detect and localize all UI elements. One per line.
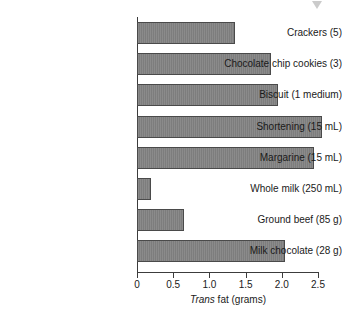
category-label: Whole milk (250 mL) [211,183,342,195]
x-tick-label: 0.5 [153,279,193,291]
category-label: Shortening (15 mL) [211,121,342,133]
x-tick [282,273,283,278]
category-label: Chocolate chip cookies (3) [211,58,342,70]
category-label: Margarine (15 mL) [211,152,342,164]
x-tick-label: 0 [117,279,157,291]
x-axis-title-roman: fat (grams) [215,294,266,305]
x-tick [137,273,138,278]
x-tick-label: 1.5 [226,279,266,291]
x-tick-label: 2.5 [298,279,338,291]
x-tick [318,273,319,278]
category-label: Milk chocolate (28 g) [211,245,342,257]
category-label: Crackers (5) [211,27,342,39]
x-tick [209,273,210,278]
x-axis-line [137,272,319,273]
x-tick [246,273,247,278]
x-axis-title-italic: Trans [190,294,215,305]
trans-fat-bar-chart: Crackers (5)Chocolate chip cookies (3)Bi… [0,0,342,319]
x-tick [173,273,174,278]
x-tick-label: 1.0 [189,279,229,291]
category-label: Ground beef (85 g) [211,214,342,226]
bar [137,178,151,200]
x-tick-label: 2.0 [262,279,302,291]
category-label: Biscuit (1 medium) [211,89,342,101]
bar [137,209,184,231]
x-axis-title: Trans fat (grams) [137,294,319,306]
plot-area: Crackers (5)Chocolate chip cookies (3)Bi… [0,0,342,319]
